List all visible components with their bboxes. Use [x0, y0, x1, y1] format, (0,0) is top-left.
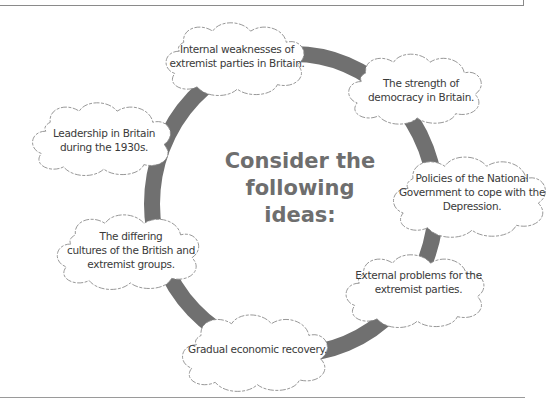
idea-line: External problems for the [346, 268, 491, 282]
idea-line: cultures of the British and [56, 243, 206, 257]
idea-line: The differing [56, 229, 206, 243]
idea-external-problems: External problems for the extremist part… [346, 268, 491, 296]
title-line: ideas: [215, 202, 385, 229]
idea-line: Depression. [388, 199, 556, 213]
idea-line: during the 1930s. [24, 140, 184, 154]
idea-strength-of-democracy: The strength of democracy in Britain. [352, 76, 490, 104]
idea-line: Leadership in Britain [24, 126, 184, 140]
idea-line: Policies of the National [388, 171, 556, 185]
center-title: Consider the following ideas: [215, 148, 385, 229]
idea-line: Internal weaknesses of [162, 42, 312, 56]
idea-line: Government to cope with the [388, 185, 556, 199]
idea-differing-cultures: The differing cultures of the British an… [56, 229, 206, 271]
idea-line: The strength of [352, 76, 490, 90]
idea-line: Gradual economic recovery. [175, 342, 340, 356]
idea-line: extremist parties in Britain. [162, 56, 312, 70]
idea-line: extremist groups. [56, 257, 206, 271]
idea-internal-weaknesses: Internal weaknesses of extremist parties… [162, 42, 312, 70]
idea-line: extremist parties. [346, 282, 491, 296]
title-line: following [215, 175, 385, 202]
idea-national-government-policies: Policies of the National Government to c… [388, 171, 556, 213]
title-line: Consider the [215, 148, 385, 175]
idea-leadership: Leadership in Britain during the 1930s. [24, 126, 184, 154]
idea-economic-recovery: Gradual economic recovery. [175, 342, 340, 356]
idea-line: democracy in Britain. [352, 90, 490, 104]
